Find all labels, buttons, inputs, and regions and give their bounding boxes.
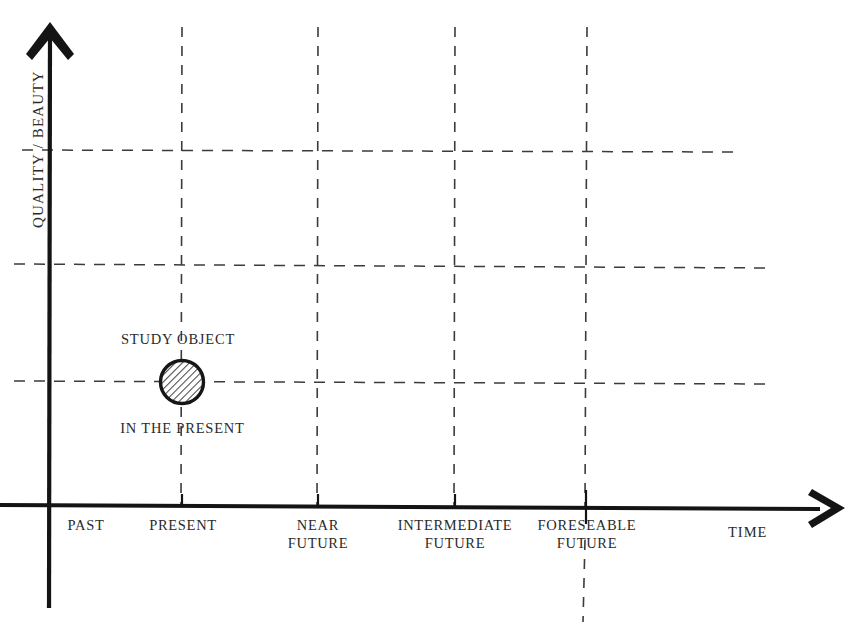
x-tick-label-foreseable-future: FORESEABLE FUTURE	[524, 516, 650, 552]
x-tick-label-near-future-line1: NEAR	[268, 516, 368, 534]
gridline-horizontal-3	[14, 381, 768, 384]
x-tick-label-present-line1: PRESENT	[135, 516, 231, 534]
y-axis-line	[49, 28, 50, 608]
x-tick-label-intermediate-future-line2: FUTURE	[383, 534, 527, 552]
x-tick-label-near-future-line2: FUTURE	[268, 534, 368, 552]
x-tick-label-near-future: NEAR FUTURE	[268, 516, 368, 552]
y-axis-title: QUALITY / BEAUTY	[30, 70, 47, 228]
x-tick-label-past: PAST	[58, 516, 114, 536]
gridline-horizontal-1	[22, 150, 737, 152]
x-tick-label-foreseable-future-line1: FORESEABLE	[524, 516, 650, 534]
x-tick-label-foreseable-future-line2: FUTURE	[524, 534, 650, 552]
gridline-horizontal-2	[14, 264, 770, 268]
gridline-vertical-foreseable-future-lower	[583, 540, 585, 622]
x-tick-label-intermediate-future-line1: INTERMEDIATE	[383, 516, 527, 534]
x-tick-label-present: PRESENT	[135, 516, 231, 534]
study-object-circle[interactable]	[161, 361, 204, 404]
study-object-bottom-label: IN THE PRESENT	[95, 419, 270, 439]
gridline-vertical-near-future	[317, 27, 318, 506]
x-axis-title: TIME	[728, 523, 767, 543]
x-axis-line	[0, 505, 820, 509]
x-tick-label-past-line1: PAST	[58, 516, 114, 536]
diagram-canvas: QUALITY / BEAUTY STUDY OBJECT IN THE PRE…	[0, 0, 852, 630]
x-tick-label-intermediate-future: INTERMEDIATE FUTURE	[383, 516, 527, 552]
study-object-marker[interactable]	[161, 361, 204, 404]
study-object-top-label: STUDY OBJECT	[98, 330, 258, 350]
gridline-vertical-foreseable-future	[585, 27, 587, 506]
